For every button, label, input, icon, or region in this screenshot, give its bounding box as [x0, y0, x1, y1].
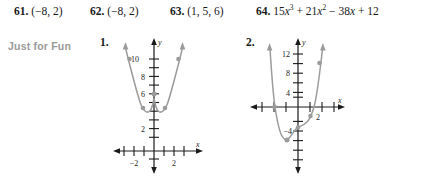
y-axis-arrow-up	[151, 38, 157, 45]
figure-2-point-y-intercept	[296, 125, 301, 130]
figure-2-point-minimum	[285, 138, 290, 143]
x-tick-label-2: 2	[316, 113, 320, 122]
y-tick-label-4: 4	[286, 89, 290, 98]
figure-1-curve-arrow-right	[180, 42, 186, 50]
y-axis-arrow-down	[295, 167, 301, 174]
figure-2-svg: 12 8 4 −4 2 y x	[248, 32, 352, 176]
figure-2-point-upper-right	[317, 61, 322, 66]
answer-value-61: (−8, 2)	[31, 5, 62, 17]
figure-1-graph: 10 8 6 2 −2 2 y x	[112, 32, 208, 176]
section-label-just-for-fun: Just for Fun	[8, 40, 71, 52]
answer-number-64: 64.	[256, 5, 270, 17]
x-axis-name: x	[337, 96, 342, 105]
y-tick-label-6: 6	[141, 90, 145, 99]
y-axis-name: y	[157, 38, 162, 47]
answer-value-63: (1, 5, 6)	[187, 5, 223, 17]
x-axis-arrow-right	[196, 148, 203, 154]
x-tick-label-neg2: −2	[130, 159, 139, 168]
x-axis-name: x	[195, 140, 200, 149]
answer-number-63: 63.	[170, 5, 184, 17]
figure-2-curve-arrow-left	[267, 43, 273, 51]
x-axis-arrow-left	[113, 148, 120, 154]
answer-number-62: 62.	[90, 5, 104, 17]
figure-1-svg: 10 8 6 2 −2 2 y x	[112, 32, 208, 176]
answer-value-62: (−8, 2)	[107, 5, 138, 17]
figure-2-curve-arrow-right	[320, 43, 326, 51]
answer-item-61: 61. (−8, 2)	[14, 4, 63, 18]
y-tick-label-12: 12	[282, 50, 290, 59]
answer-row: 61. (−8, 2) 62. (−8, 2) 63. (1, 5, 6) 64…	[0, 4, 433, 22]
y-axis-arrow-down	[151, 167, 157, 174]
figure-1-point-min-right	[163, 106, 168, 111]
answer-item-62: 62. (−8, 2)	[90, 4, 139, 18]
y-axis-arrow-up	[295, 38, 301, 45]
figure-2-point-root-right	[308, 114, 313, 119]
x-axis-arrow-right	[338, 104, 345, 110]
answer-item-63: 63. (1, 5, 6)	[170, 4, 224, 18]
x-tick-label-2: 2	[172, 159, 176, 168]
figure-1-curve-arrow-left	[123, 42, 129, 50]
x-axis-arrow-left	[250, 104, 257, 110]
answer-item-64: 64. 15x3 + 21x2 − 38x + 12	[256, 4, 379, 18]
y-axis-name: y	[301, 38, 306, 47]
y-tick-label-2: 2	[141, 125, 145, 134]
y-tick-label-8: 8	[286, 69, 290, 78]
answer-value-64: 15x3 + 21x2 − 38x + 12	[273, 5, 379, 17]
y-tick-label-neg4: −4	[283, 127, 292, 136]
figure-number-1: 1.	[100, 36, 109, 48]
y-tick-label-8: 8	[141, 73, 145, 82]
figure-2-point-root-left	[272, 105, 277, 110]
figure-1-point-min-left	[141, 106, 146, 111]
answer-number-61: 61.	[14, 5, 28, 17]
figure-1-point-left	[127, 57, 132, 62]
figure-1-point-right	[176, 57, 181, 62]
figure-1-point-vertex-max	[152, 92, 157, 97]
figure-2-graph: 12 8 4 −4 2 y x	[248, 32, 352, 176]
y-tick-label-10: 10	[131, 55, 139, 64]
